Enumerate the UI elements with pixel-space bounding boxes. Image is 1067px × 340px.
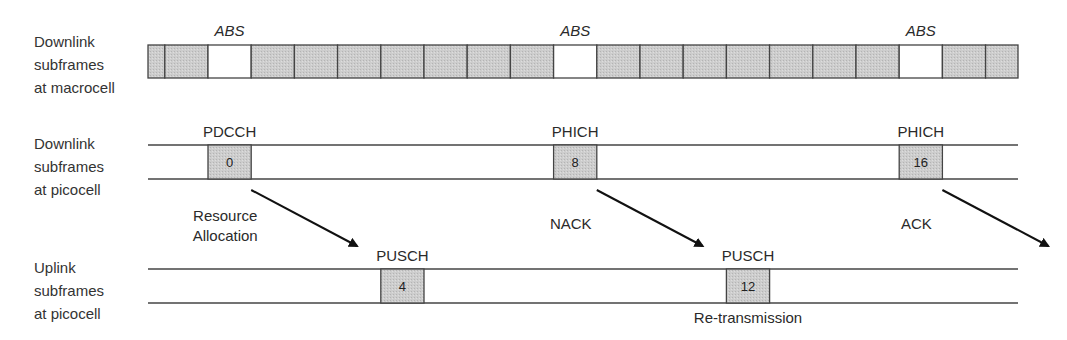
row-label-pico-downlink: Downlink subframes at picocell [34,135,104,198]
macro-subframe [467,45,510,78]
row-label-line: Uplink [34,259,76,276]
arrow-label: ACK [901,215,932,232]
macro-subframe [813,45,856,78]
abs-label: ABS [905,22,936,39]
macro-subframe [942,45,985,78]
macro-subframe-abs [554,45,597,78]
macro-subframe [683,45,726,78]
channel-label-phich: PHICH [552,123,599,140]
abs-label: ABS [559,22,590,39]
subframe-number: 12 [741,279,755,294]
row-label-line: subframes [34,56,104,73]
arrow-label: Allocation [193,227,258,244]
arrow-1 [597,190,703,246]
macro-subframe-abs [899,45,942,78]
macro-subframe [251,45,294,78]
row-label-line: at picocell [34,305,101,322]
row-label-line: subframes [34,158,104,175]
channel-label-phich: PHICH [897,123,944,140]
macro-subframe [640,45,683,78]
subframe-number: 8 [572,155,579,170]
macro-subframe [510,45,553,78]
row-label-line: Downlink [34,135,95,152]
macrocell-subframe-strip: ABSABSABS [148,22,1018,78]
macro-subframe [856,45,899,78]
row-label-macro-downlink: Downlink subframes at macrocell [34,33,115,96]
row-label-line: Downlink [34,33,95,50]
picocell-uplink-strip: 4PUSCH12PUSCHRe-transmission [148,247,1018,326]
row-label-line: at picocell [34,181,101,198]
harq-abs-timing-diagram: Downlink subframes at macrocell Downlink… [0,0,1067,340]
arrow-0 [251,190,357,246]
macro-subframe [770,45,813,78]
macro-subframe-abs [208,45,251,78]
arrows-layer: ResourceAllocationNACKACK [193,190,1049,246]
macro-subframe-partial [148,45,165,78]
channel-label-pusch: PUSCH [722,247,775,264]
subframe-number: 0 [226,155,233,170]
macro-subframe [986,45,1018,78]
abs-label: ABS [214,22,245,39]
row-label-line: at macrocell [34,79,115,96]
retransmission-label: Re-transmission [694,309,802,326]
subframe-number: 4 [399,279,406,294]
macro-subframe [381,45,424,78]
arrow-label: NACK [550,215,592,232]
channel-label-pdcch: PDCCH [203,123,256,140]
macro-subframe [726,45,769,78]
macro-subframe [424,45,467,78]
macro-subframe [597,45,640,78]
subframe-number: 16 [914,155,928,170]
channel-label-pusch: PUSCH [376,247,429,264]
macro-subframe [338,45,381,78]
picocell-downlink-strip: 0PDCCH8PHICH16PHICH [148,123,1018,179]
macro-subframe [294,45,337,78]
row-label-line: subframes [34,282,104,299]
macro-subframe [165,45,208,78]
arrow-label: Resource [193,207,257,224]
row-label-pico-uplink: Uplink subframes at picocell [34,259,104,322]
arrow-2 [942,190,1048,246]
